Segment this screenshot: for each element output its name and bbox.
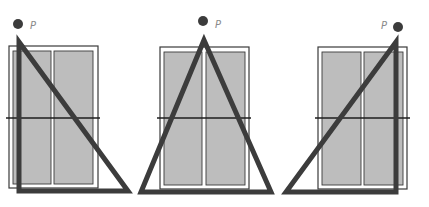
viewpoint-p-label: P bbox=[30, 20, 37, 31]
viewpoint-p-label: P bbox=[215, 19, 222, 30]
viewpoint-p-dot bbox=[13, 19, 23, 29]
viewpoint-p-dot bbox=[198, 16, 208, 26]
viewpoint-p-label: P bbox=[381, 20, 388, 31]
perspective-diagram: P P P bbox=[0, 0, 429, 207]
panel-center: P bbox=[141, 16, 271, 192]
panel-right: P bbox=[286, 20, 410, 192]
panel-left: P bbox=[6, 19, 128, 191]
viewpoint-p-dot bbox=[393, 22, 403, 32]
